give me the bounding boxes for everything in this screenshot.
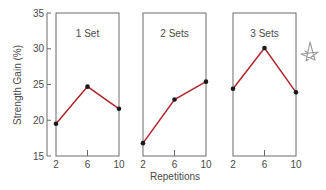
x-tick-label: 2 <box>140 159 146 170</box>
series-line <box>56 87 119 124</box>
data-point <box>141 141 146 146</box>
x-tick-label: 2 <box>230 159 236 170</box>
x-tick-label: 6 <box>172 159 178 170</box>
x-tick-label: 2 <box>53 159 59 170</box>
x-axis-label: Repetitions <box>150 171 200 182</box>
series-line <box>143 82 206 144</box>
data-point <box>172 97 177 102</box>
y-tick-label: 35 <box>33 8 45 19</box>
data-point <box>117 107 122 112</box>
data-point <box>231 86 236 91</box>
panel-title: 1 Set <box>76 28 100 39</box>
panel-1: 1 Set2610 <box>53 13 125 170</box>
data-point <box>262 46 267 51</box>
y-tick-label: 20 <box>33 115 45 126</box>
y-tick-label: 15 <box>33 151 45 162</box>
y-axis-label: Strength Gain (%) <box>12 45 23 125</box>
y-axis: 1520253035 <box>33 8 51 162</box>
star-annotation-icon <box>301 42 318 61</box>
strength-gain-chart: 1520253035 Strength Gain (%) 1 Set26102 … <box>0 0 326 190</box>
panel-title: 3 Sets <box>250 28 278 39</box>
data-point <box>85 84 90 89</box>
y-tick-label: 25 <box>33 79 45 90</box>
x-tick-label: 6 <box>85 159 91 170</box>
x-tick-label: 10 <box>290 159 302 170</box>
y-tick-label: 30 <box>33 43 45 54</box>
x-tick-label: 10 <box>113 159 125 170</box>
panel-title: 2 Sets <box>160 28 188 39</box>
panel-2: 2 Sets2610 <box>140 13 212 170</box>
data-point <box>294 90 299 95</box>
x-tick-label: 10 <box>200 159 212 170</box>
panels: 1 Set26102 Sets26103 Sets2610 <box>53 13 302 170</box>
series-line <box>233 48 296 92</box>
x-tick-label: 6 <box>262 159 268 170</box>
data-point <box>204 79 209 84</box>
panel-3: 3 Sets2610 <box>230 13 302 170</box>
data-point <box>54 122 59 127</box>
